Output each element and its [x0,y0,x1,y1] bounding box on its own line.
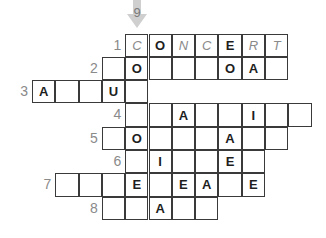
crossword-cell[interactable] [102,197,125,220]
crossword-cell[interactable] [125,103,148,126]
crossword-cell[interactable]: E [242,173,265,196]
crossword-cell[interactable] [125,197,148,220]
clue-number: 7 [33,173,51,196]
crossword-cell[interactable]: O [149,34,172,57]
crossword-cell[interactable] [102,57,125,80]
crossword-cell[interactable] [195,197,218,220]
crossword-cell[interactable]: A [172,103,195,126]
crossword-cell[interactable]: R [242,34,265,57]
clue-number: 6 [103,150,121,173]
crossword-cell[interactable]: C [195,34,218,57]
crossword-cell[interactable] [195,127,218,150]
crossword-cell[interactable]: N [172,34,195,57]
crossword-cell[interactable] [195,150,218,173]
crossword-cell[interactable] [265,57,288,80]
crossword-cell[interactable]: A [218,127,241,150]
crossword-cell[interactable]: I [149,150,172,173]
clue-number: 5 [80,127,98,150]
crossword-cell[interactable]: O [218,57,241,80]
crossword-cell[interactable] [55,173,78,196]
clue-number: 2 [80,57,98,80]
crossword-cell[interactable] [265,103,288,126]
crossword-cell[interactable] [55,80,78,103]
crossword-cell[interactable] [242,127,265,150]
crossword-cell[interactable] [195,103,218,126]
crossword-cell[interactable] [102,127,125,150]
crossword-grid: 9 1CONCERT2OOA3AU4AI5OA6IE7EEAE8A [0,0,326,238]
crossword-cell[interactable] [149,103,172,126]
crossword-cell[interactable]: A [195,173,218,196]
crossword-cell[interactable] [79,80,102,103]
crossword-cell[interactable] [195,57,218,80]
clue-number: 8 [80,197,98,220]
crossword-cell[interactable]: E [172,173,195,196]
crossword-cell[interactable]: E [218,150,241,173]
crossword-cell[interactable] [125,80,148,103]
clue-number: 1 [103,34,121,57]
crossword-cell[interactable] [149,57,172,80]
crossword-cell[interactable] [172,150,195,173]
crossword-cell[interactable] [218,173,241,196]
crossword-cell[interactable]: A [242,57,265,80]
crossword-cell[interactable]: O [125,127,148,150]
crossword-cell[interactable] [172,127,195,150]
crossword-cell[interactable] [242,150,265,173]
clue-number: 3 [10,80,28,103]
crossword-cell[interactable] [288,103,311,126]
crossword-cell[interactable]: O [125,57,148,80]
crossword-cell[interactable]: I [242,103,265,126]
crossword-cell[interactable]: A [32,80,55,103]
clue-number: 4 [103,103,121,126]
crossword-cell[interactable]: E [218,34,241,57]
crossword-cell[interactable] [218,103,241,126]
crossword-cell[interactable]: A [149,197,172,220]
crossword-cell[interactable] [172,57,195,80]
crossword-cell[interactable]: C [125,34,148,57]
crossword-cell[interactable] [172,197,195,220]
crossword-cell[interactable] [265,127,288,150]
crossword-cell[interactable] [79,173,102,196]
crossword-cell[interactable]: T [265,34,288,57]
crossword-cell[interactable] [125,150,148,173]
crossword-cell[interactable] [102,173,125,196]
crossword-cell[interactable]: U [102,80,125,103]
crossword-cell[interactable] [149,173,172,196]
crossword-cell[interactable]: E [125,173,148,196]
crossword-cell[interactable] [149,127,172,150]
down-clue-number: 9 [126,5,148,20]
